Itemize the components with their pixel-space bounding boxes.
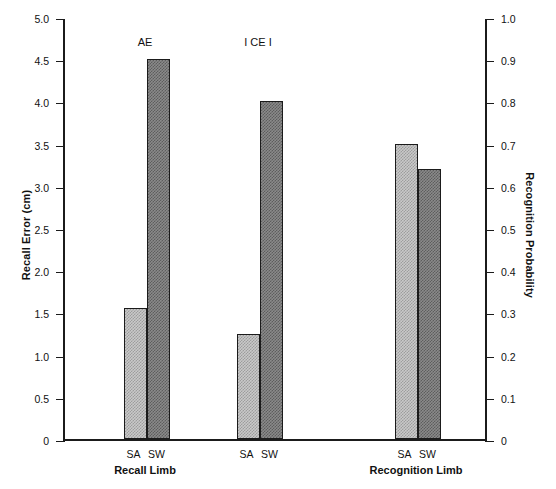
left-axis-tick-label: 0 xyxy=(0,436,49,446)
right-axis-tick xyxy=(485,103,494,104)
right-axis-tick xyxy=(485,357,494,358)
x-axis-label-sa: SA xyxy=(126,448,140,460)
left-axis-tick-label: 4.5 xyxy=(0,56,49,66)
group-header-1: AE xyxy=(138,36,153,48)
left-axis-tick xyxy=(56,19,65,20)
left-axis-tick xyxy=(56,314,65,315)
x-axis-label-sa: SA xyxy=(239,448,253,460)
right-axis-tick-label: 1.0 xyxy=(501,14,516,24)
x-axis-label-sw: SW xyxy=(148,448,165,460)
left-axis-tick xyxy=(56,441,65,442)
x-axis-label-sw: SW xyxy=(419,448,436,460)
left-axis-tick xyxy=(56,61,65,62)
left-axis-tick-label: 1.5 xyxy=(0,309,49,319)
left-axis-tick-label: 3.5 xyxy=(0,141,49,151)
left-axis-tick-label: 2.5 xyxy=(0,225,49,235)
left-axis-tick-label: 3.0 xyxy=(0,183,49,193)
x-axis-label-sw: SW xyxy=(261,448,278,460)
bar-chart: Recall Error (cm) Recognition Probabilit… xyxy=(0,0,556,489)
bar--sa xyxy=(237,334,260,440)
x-group-label-recall-limb: Recall Limb xyxy=(114,464,176,476)
bar-recognition-limb-sw xyxy=(418,169,441,439)
bar--sw xyxy=(260,101,283,439)
right-axis-tick xyxy=(485,61,494,62)
left-axis-tick-label: 2.0 xyxy=(0,267,49,277)
bar-recall-limb-sw xyxy=(147,59,170,439)
left-axis-tick xyxy=(56,357,65,358)
right-axis-tick-label: 0.8 xyxy=(501,98,516,108)
right-axis-tick-label: 0.2 xyxy=(501,352,516,362)
right-axis-tick-label: 0.6 xyxy=(501,183,516,193)
left-axis-tick-label: 5.0 xyxy=(0,14,49,24)
right-axis-tick xyxy=(485,272,494,273)
left-axis-tick xyxy=(56,230,65,231)
group-header-2: I CE I xyxy=(244,36,272,48)
right-axis-tick-label: 0.1 xyxy=(501,394,516,404)
right-axis-tick-label: 0.9 xyxy=(501,56,516,66)
right-axis-tick xyxy=(485,19,494,20)
bar-recall-limb-sa xyxy=(124,308,147,439)
plot-area xyxy=(63,19,487,441)
left-axis-tick-label: 4.0 xyxy=(0,98,49,108)
x-group-label-recognition-limb: Recognition Limb xyxy=(370,464,463,476)
right-axis-tick xyxy=(485,314,494,315)
left-axis-tick xyxy=(56,188,65,189)
left-axis-tick-label: 0.5 xyxy=(0,394,49,404)
right-axis-tick-label: 0.7 xyxy=(501,141,516,151)
right-axis-tick xyxy=(485,399,494,400)
right-axis-tick-label: 0 xyxy=(501,436,507,446)
left-axis-tick xyxy=(56,146,65,147)
left-axis-tick xyxy=(56,399,65,400)
right-axis-tick xyxy=(485,441,494,442)
left-axis-tick xyxy=(56,272,65,273)
bar-recognition-limb-sa xyxy=(395,144,418,439)
right-axis-tick xyxy=(485,188,494,189)
right-axis-tick-label: 0.3 xyxy=(501,309,516,319)
right-axis-tick xyxy=(485,230,494,231)
left-axis-tick-label: 1.0 xyxy=(0,352,49,362)
x-axis-label-sa: SA xyxy=(397,448,411,460)
left-axis-tick xyxy=(56,103,65,104)
right-axis-tick-label: 0.4 xyxy=(501,267,516,277)
right-axis-tick-label: 0.5 xyxy=(501,225,516,235)
right-axis-tick xyxy=(485,146,494,147)
right-axis-title: Recognition Probability xyxy=(524,172,536,298)
